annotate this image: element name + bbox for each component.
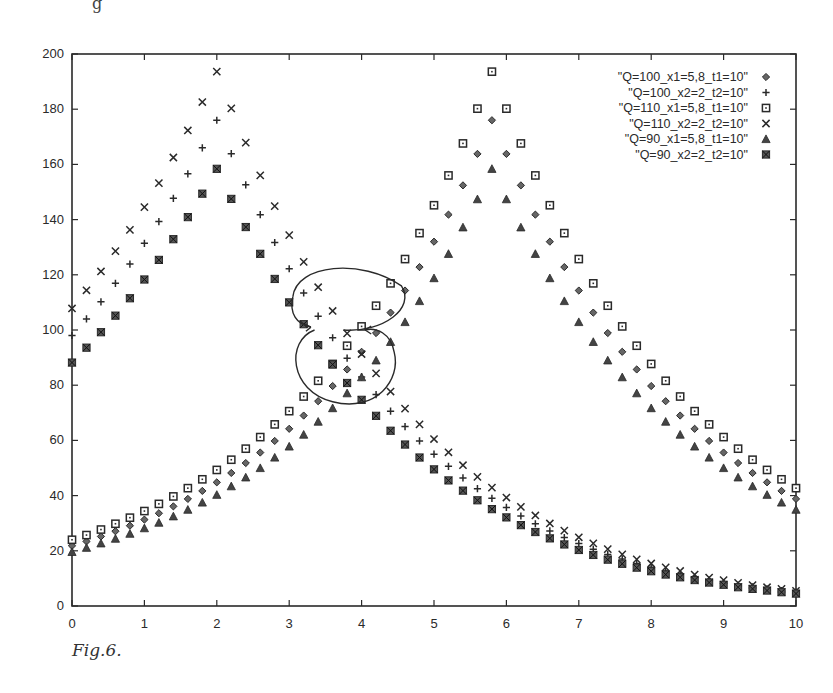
triangle-marker (343, 389, 351, 397)
diamond-marker (778, 487, 785, 494)
annotation-ellipse-upper (292, 268, 405, 330)
legend-plus-icon (762, 89, 769, 96)
cross-marker (271, 202, 278, 209)
legend-label: "Q=90_x1=5,8_t1=10" (625, 132, 748, 146)
triangle-marker (792, 506, 800, 514)
triangle-marker (473, 195, 481, 203)
triangle-marker (97, 539, 105, 547)
y-tick-label: 20 (50, 543, 64, 558)
plus-marker (300, 289, 307, 296)
series-triangle (68, 165, 800, 556)
x-tick-label: 7 (575, 616, 582, 631)
plus-marker (271, 239, 278, 246)
plus-marker (170, 195, 177, 202)
diamond-marker (763, 479, 770, 486)
cross-marker (315, 284, 322, 291)
plus-marker (83, 315, 90, 322)
plus-marker (387, 408, 394, 415)
triangle-marker (589, 338, 597, 346)
x-tick-label: 2 (213, 616, 220, 631)
legend-cross-icon (762, 120, 769, 127)
triangle-marker (155, 519, 163, 527)
plus-marker (561, 534, 568, 541)
diamond-marker (329, 382, 336, 389)
legend-label: "Q=90_x2=2_t2=10" (635, 148, 748, 162)
figure-caption: Fig.6. (72, 640, 122, 660)
plus-marker (155, 218, 162, 225)
triangle-marker (647, 404, 655, 412)
diamond-marker (619, 348, 626, 355)
diamond-marker (590, 309, 597, 316)
plus-marker (184, 170, 191, 177)
diamond-marker (677, 412, 684, 419)
diamond-marker (662, 398, 669, 405)
diamond-marker (517, 182, 524, 189)
cross-marker (300, 258, 307, 265)
diamond-marker (387, 309, 394, 316)
triangle-marker (401, 318, 409, 326)
triangle-marker (82, 544, 90, 552)
diamond-marker (155, 510, 162, 517)
triangle-marker (430, 274, 438, 282)
x-tick-label: 4 (358, 616, 365, 631)
triangle-marker (415, 297, 423, 305)
triangle-marker (169, 512, 177, 520)
triangle-marker (633, 389, 641, 397)
legend-label: "Q=110_x1=5,8_t1=10" (619, 101, 748, 115)
triangle-marker (256, 464, 264, 472)
cross-marker (561, 527, 568, 534)
triangle-marker (242, 473, 250, 481)
diamond-marker (416, 263, 423, 270)
legend: "Q=100_x1=5,8_t1=10""Q=100_x2=2_t2=10""Q… (618, 70, 770, 162)
triangle-marker (314, 418, 322, 426)
triangle-marker (662, 418, 670, 426)
cross-marker (575, 534, 582, 541)
x-tick-label: 6 (503, 616, 510, 631)
cross-marker (416, 421, 423, 428)
diamond-marker (648, 382, 655, 389)
triangle-marker (734, 473, 742, 481)
cross-marker (141, 204, 148, 211)
diamond-marker (257, 449, 264, 456)
triangle-marker (488, 165, 496, 173)
x-tick-label: 1 (141, 616, 148, 631)
y-tick-label: 180 (42, 101, 64, 116)
diamond-marker (459, 182, 466, 189)
diamond-marker (488, 117, 495, 124)
cross-marker (488, 484, 495, 491)
plus-marker (126, 260, 133, 267)
triangle-marker (604, 356, 612, 364)
cross-marker (532, 512, 539, 519)
plus-marker (474, 485, 481, 492)
y-tick-label: 140 (42, 212, 64, 227)
triangle-marker (198, 498, 206, 506)
series-star (68, 165, 799, 597)
cross-marker (546, 520, 553, 527)
diamond-marker (691, 425, 698, 432)
triangle-marker (720, 464, 728, 472)
diamond-marker (242, 459, 249, 466)
diamond-marker (546, 238, 553, 245)
triangle-marker (763, 491, 771, 499)
x-tick-label: 8 (648, 616, 655, 631)
plus-marker (199, 144, 206, 151)
triangle-marker (575, 318, 583, 326)
triangle-marker (531, 250, 539, 258)
cross-marker (401, 405, 408, 412)
triangle-marker (285, 442, 293, 450)
diamond-marker (575, 287, 582, 294)
cross-marker (170, 154, 177, 161)
cross-marker (242, 139, 249, 146)
triangle-marker (213, 491, 221, 499)
cross-marker (474, 473, 481, 480)
plus-marker (228, 150, 235, 157)
diamond-marker (604, 329, 611, 336)
diamond-marker (734, 459, 741, 466)
diamond-marker (170, 503, 177, 510)
triangle-marker (444, 250, 452, 258)
cross-marker (112, 247, 119, 254)
diamond-marker (749, 469, 756, 476)
diamond-marker (792, 495, 799, 502)
y-tick-label: 200 (42, 46, 64, 61)
plus-marker (488, 495, 495, 502)
